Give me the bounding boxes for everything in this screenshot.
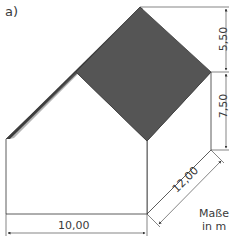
- dimension-roof-height-label: 5,50: [218, 27, 230, 52]
- house-diagram: a) 10,00 5,50 7,50 12,00 Maße in m: [0, 0, 230, 243]
- part-label: a): [5, 6, 18, 18]
- dimension-wall-height-label: 7,50: [218, 94, 230, 119]
- extension-line-diag-b: [211, 150, 224, 163]
- dimension-width-label: 10,00: [58, 220, 90, 232]
- units-label: Maße in m: [198, 207, 230, 233]
- house-drawing: [0, 0, 230, 243]
- extension-line-diag-a: [147, 214, 160, 227]
